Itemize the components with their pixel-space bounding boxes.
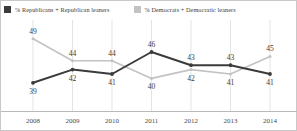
- x-tick-label: 2014: [263, 117, 277, 125]
- data-point: [32, 37, 35, 40]
- data-point: [71, 68, 75, 72]
- data-point: [31, 81, 35, 85]
- data-label: 45: [266, 44, 274, 53]
- data-label: 40: [148, 82, 156, 91]
- data-point: [190, 68, 193, 71]
- data-label: 41: [266, 78, 274, 87]
- chart-figure: % Republicans + Republican leaners % Dem…: [0, 0, 297, 131]
- data-point: [111, 59, 114, 62]
- data-label: 42: [69, 74, 77, 83]
- data-label: 41: [108, 78, 116, 87]
- x-axis-labels: 2008200920102011201220132014: [1, 114, 297, 131]
- data-point: [269, 55, 272, 58]
- data-label: 43: [227, 53, 235, 62]
- data-point: [150, 50, 154, 54]
- data-point: [110, 72, 114, 76]
- data-label: 41: [227, 78, 235, 87]
- chart-plot-area: 4944444042414539424146434341: [1, 18, 297, 114]
- data-label: 42: [187, 74, 195, 83]
- republican-swatch-icon: [4, 6, 11, 13]
- data-label: 44: [108, 49, 116, 58]
- data-label: 46: [148, 40, 156, 49]
- legend-label-republicans: % Republicans + Republican leaners: [15, 6, 110, 13]
- data-label: 44: [69, 49, 77, 58]
- x-tick-label: 2013: [224, 117, 238, 125]
- chart-legend: % Republicans + Republican leaners % Dem…: [1, 1, 297, 18]
- data-label: 39: [29, 87, 37, 96]
- x-tick-label: 2012: [184, 117, 198, 125]
- data-point: [71, 59, 74, 62]
- data-point: [229, 63, 233, 67]
- x-tick-label: 2008: [26, 117, 40, 125]
- data-point: [268, 72, 272, 76]
- democrat-swatch-icon: [134, 6, 141, 13]
- data-point: [150, 77, 153, 80]
- x-tick-label: 2010: [105, 117, 119, 125]
- legend-item-republicans: % Republicans + Republican leaners: [4, 6, 110, 13]
- data-label: 49: [29, 27, 37, 36]
- x-tick-label: 2009: [66, 117, 80, 125]
- data-point: [189, 63, 193, 67]
- x-tick-label: 2011: [145, 117, 159, 125]
- line-chart-svg: 4944444042414539424146434341: [1, 18, 297, 114]
- legend-label-democrats: % Democrats + Democratic leaners: [145, 6, 236, 13]
- data-label: 43: [187, 53, 195, 62]
- data-point: [229, 73, 232, 76]
- legend-item-democrats: % Democrats + Democratic leaners: [134, 6, 236, 13]
